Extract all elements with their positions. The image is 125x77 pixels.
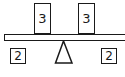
fulcrum-triangle-icon — [54, 40, 74, 65]
weight-box-left-bottom: 2 — [10, 48, 26, 64]
weight-box-left-top: 3 — [34, 3, 51, 34]
weight-label: 2 — [105, 49, 113, 63]
weight-label: 3 — [82, 11, 90, 26]
weight-label: 2 — [14, 49, 22, 63]
weight-label: 3 — [38, 11, 46, 26]
weight-box-right-top: 3 — [78, 3, 95, 34]
weight-box-right-bottom: 2 — [101, 48, 117, 64]
